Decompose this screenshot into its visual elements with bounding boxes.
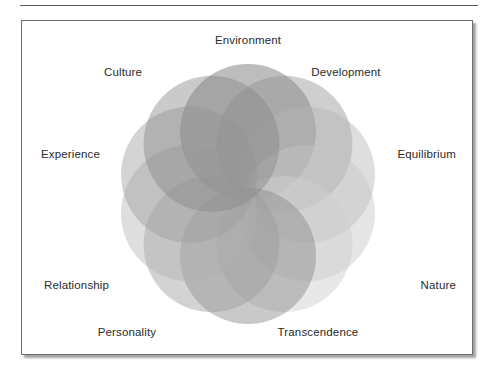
venn-circle-spirit <box>144 76 280 212</box>
figure-root: Environment Culture Development Experien… <box>0 0 498 374</box>
page-top-rule <box>20 5 478 6</box>
venn-diagram <box>22 21 474 356</box>
figure-frame: Environment Culture Development Experien… <box>21 20 473 355</box>
venn-label-nature: Nature <box>421 279 456 292</box>
venn-label-transcendence: Transcendence <box>278 326 359 339</box>
venn-label-experience: Experience <box>41 148 100 161</box>
venn-circle-group <box>121 64 375 324</box>
venn-circles-svg <box>22 21 474 356</box>
venn-label-personality: Personality <box>98 326 157 339</box>
venn-label-equilibrium: Equilibrium <box>397 148 456 161</box>
venn-label-development: Development <box>311 66 380 79</box>
venn-label-relationship: Relationship <box>44 279 109 292</box>
venn-label-culture: Culture <box>104 66 142 79</box>
venn-label-environment: Environment <box>215 34 281 47</box>
